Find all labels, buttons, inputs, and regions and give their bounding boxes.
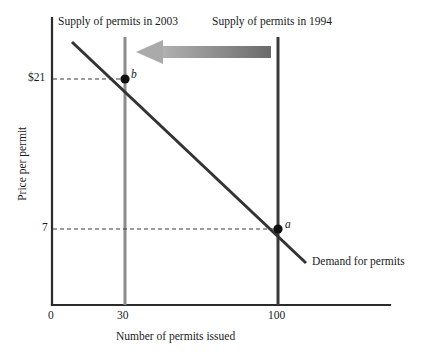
chart-plot-area — [0, 0, 432, 356]
point-a-label: a — [285, 219, 291, 231]
demand-curve-label: Demand for permits — [312, 256, 405, 268]
economics-supply-demand-chart: Supply of permits in 2003 Supply of perm… — [0, 0, 432, 356]
x-axis-tick-label-100: 100 — [268, 310, 285, 322]
demand-curve-line — [72, 42, 306, 263]
y-axis-tick-label-21: $21 — [28, 72, 45, 84]
x-axis-tick-label-30: 30 — [117, 310, 129, 322]
supply-1994-label: Supply of permits in 1994 — [212, 16, 332, 28]
point-a-marker — [273, 224, 282, 233]
point-b-marker — [120, 74, 129, 83]
point-b-label: b — [131, 69, 137, 81]
supply-2003-label: Supply of permits in 2003 — [58, 16, 178, 28]
x-axis-title: Number of permits issued — [116, 331, 235, 343]
x-axis-tick-label-0: 0 — [48, 310, 54, 322]
supply-shift-arrow-icon — [136, 40, 271, 64]
y-axis-tick-label-7: 7 — [42, 222, 48, 234]
y-axis-title: Price per permit — [17, 114, 29, 214]
